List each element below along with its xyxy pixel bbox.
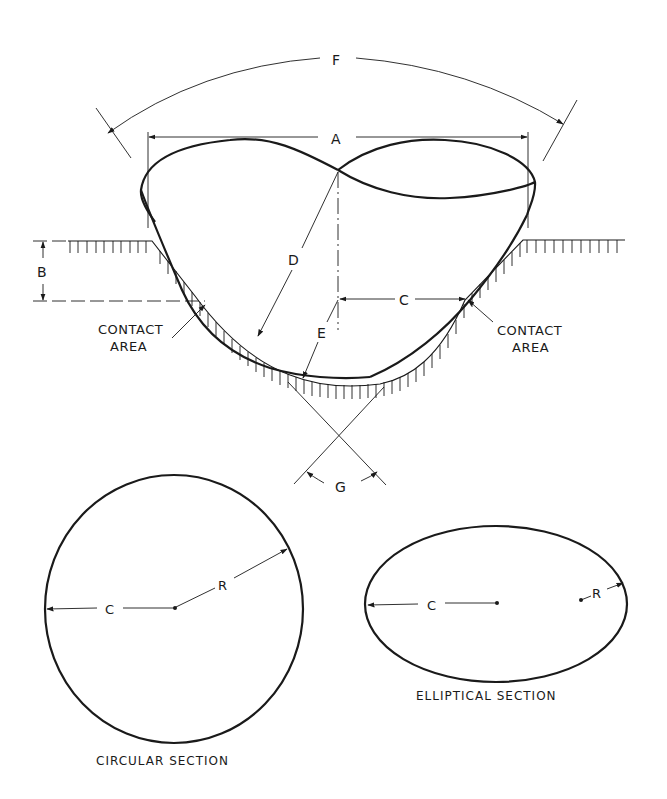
circle-label-c: C (105, 602, 115, 617)
f-arc-left (108, 58, 320, 133)
lobe-right-top (338, 140, 535, 215)
e-line-lower (303, 342, 318, 378)
d-line-lower (258, 270, 292, 336)
contact-area-left: CONTACT AREA (98, 305, 205, 354)
d-line-upper (302, 172, 338, 248)
flank-right (370, 215, 527, 377)
ground-hatching (70, 240, 617, 399)
g-tangent-left (288, 382, 386, 485)
circle-c-line-left (47, 608, 97, 609)
dimension-e: E (303, 300, 338, 378)
label-g: G (335, 479, 346, 495)
f-extension-right (543, 100, 577, 161)
ellipse-r-line-inner (581, 596, 591, 600)
contact-right-text-2: AREA (512, 340, 549, 355)
lobe-right-bottom (338, 170, 535, 198)
g-arrow-right (361, 472, 377, 481)
elliptical-section-caption: ELLIPTICAL SECTION (416, 689, 557, 703)
contact-left-text-1: CONTACT (98, 322, 163, 337)
label-b: B (37, 264, 47, 280)
circular-section: C R CIRCULAR SECTION (45, 475, 303, 768)
contact-right-text-1: CONTACT (497, 323, 562, 338)
ellipse-label-c: C (427, 598, 437, 613)
ellipse-c-line-left (368, 604, 418, 605)
ellipse-r-line-outer (607, 583, 623, 589)
groove-profile (68, 240, 625, 386)
e-line-upper (327, 300, 338, 322)
g-tangent-right (294, 387, 384, 484)
f-extension-left (96, 108, 131, 158)
contact-right-leader (468, 300, 493, 322)
f-arc-right (356, 58, 563, 124)
label-a: A (331, 131, 341, 147)
dimension-g: G (288, 382, 386, 495)
flank-left (141, 190, 370, 378)
elliptical-section: C R ELLIPTICAL SECTION (365, 526, 627, 703)
contact-left-text-2: AREA (110, 339, 147, 354)
g-arrow-left (307, 472, 324, 483)
circle-r-line-outer (234, 549, 287, 578)
label-c: C (399, 292, 409, 308)
lobe-left-top (141, 139, 338, 222)
label-e: E (317, 325, 326, 341)
ellipse-label-r: R (592, 586, 602, 601)
label-f: F (332, 52, 340, 68)
engineering-diagram: F A D (0, 0, 667, 799)
label-d: D (288, 252, 299, 268)
dimension-b: B (33, 241, 205, 301)
circular-section-caption: CIRCULAR SECTION (96, 754, 229, 768)
dimension-c: C (340, 292, 465, 308)
dimension-d: D (258, 172, 338, 336)
circle-r-line-inner (176, 588, 215, 607)
groove-surface (68, 240, 625, 399)
contact-area-right: CONTACT AREA (468, 300, 562, 355)
circle-label-r: R (218, 578, 228, 593)
